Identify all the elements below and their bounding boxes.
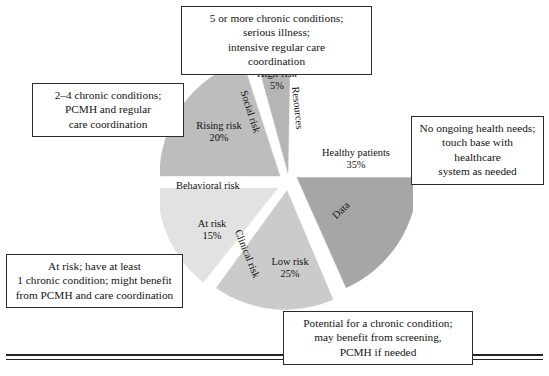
callout-high-risk: 5 or more chronic conditions; serious il… — [181, 6, 372, 75]
callout-healthy: No ongoing health needs; touch base with… — [411, 116, 544, 185]
callout-at-risk: At risk; have at least 1 chronic conditi… — [6, 254, 183, 308]
callout-low-risk: Potential for a chronic condition; may b… — [283, 311, 473, 365]
callout-rising-risk: 2–4 chronic conditions; PCMH and regular… — [32, 83, 184, 137]
figure-canvas: Healthy patients 35% Rising risk 20% Hig… — [0, 0, 549, 376]
pie-chart — [160, 50, 413, 315]
pie-svg — [160, 50, 413, 315]
